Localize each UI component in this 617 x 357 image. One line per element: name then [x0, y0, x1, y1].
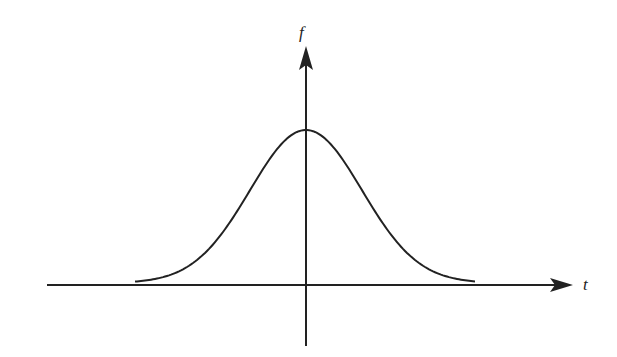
x-axis-label: t: [583, 276, 588, 293]
y-axis-label: f: [299, 24, 304, 41]
diagram-canvas: [0, 0, 617, 357]
